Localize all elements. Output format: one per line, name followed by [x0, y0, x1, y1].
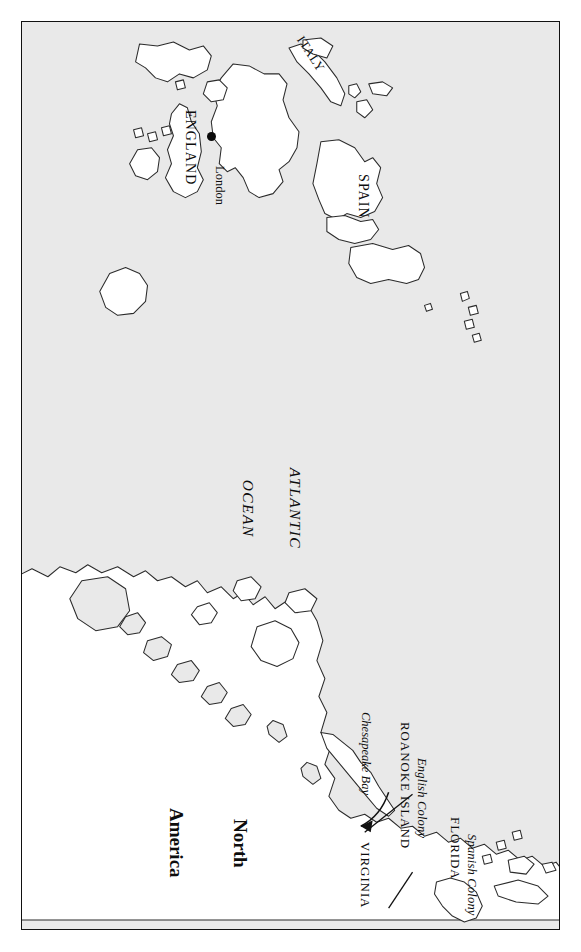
- land-isle-d: [175, 80, 185, 90]
- land-isle-a: [161, 126, 171, 136]
- land-isle-b: [148, 132, 158, 142]
- map-graphics: [22, 22, 559, 929]
- land-azores-5: [472, 333, 481, 342]
- land-isle-c: [134, 128, 144, 138]
- land-bahamas-3: [512, 830, 522, 840]
- land-bahamas-1: [482, 854, 492, 864]
- land-azores-1: [425, 303, 433, 311]
- map-frame: ATLANTIC OCEAN North America ENGLAND ITA…: [21, 21, 560, 930]
- land-nw-africa: [349, 244, 425, 284]
- land-azores-4: [464, 319, 474, 329]
- land-bahamas-2: [496, 840, 506, 850]
- land-azores-3: [468, 305, 478, 315]
- city-dot-icon: [207, 132, 216, 141]
